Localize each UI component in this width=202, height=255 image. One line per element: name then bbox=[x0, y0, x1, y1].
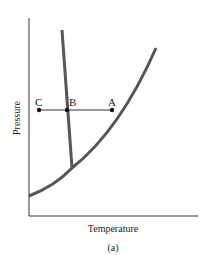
label-b: B bbox=[69, 96, 76, 108]
phase-diagram: C B A Pressure Temperature (a) bbox=[0, 0, 202, 255]
vaporization-curve bbox=[29, 48, 156, 196]
label-a: A bbox=[108, 96, 116, 108]
y-axis-label: Pressure bbox=[11, 101, 22, 135]
point-b bbox=[65, 108, 69, 112]
x-axis-label: Temperature bbox=[88, 223, 139, 234]
label-c: C bbox=[35, 96, 42, 108]
caption: (a) bbox=[107, 242, 118, 254]
point-a bbox=[110, 108, 114, 112]
point-c bbox=[37, 108, 41, 112]
